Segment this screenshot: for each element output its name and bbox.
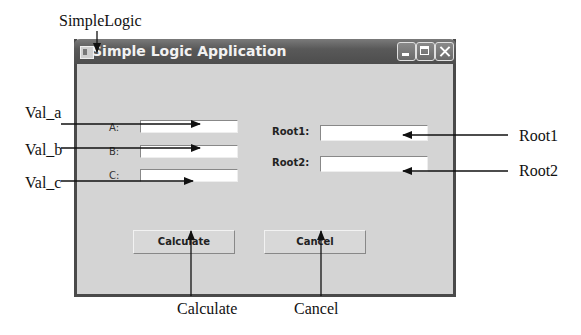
window-title: Simple Logic Application [92,43,287,59]
label-c: C: [109,170,119,181]
annotation-simplelogic: SimpleLogic [59,12,142,30]
annotation-root2: Root2 [519,162,558,180]
annotation-calculate: Calculate [177,300,237,318]
annotation-root1: Root1 [519,127,558,145]
label-root2: Root2: [272,157,309,168]
input-c[interactable] [140,169,238,182]
annotation-val-a: Val_a [25,104,61,122]
input-b[interactable] [140,145,238,158]
calculate-button[interactable]: Calculate [133,230,235,254]
close-button[interactable] [435,42,454,61]
input-a[interactable] [140,120,238,133]
annotation-val-b: Val_b [25,141,62,159]
maximize-button[interactable] [416,42,435,61]
annotation-val-c: Val_c [25,174,61,192]
label-root1: Root1: [272,126,309,137]
annotation-cancel: Cancel [294,300,338,318]
title-bar[interactable]: Simple Logic Application [74,39,456,64]
output-root2[interactable] [320,156,428,172]
label-b: B: [109,146,119,157]
minimize-button[interactable] [397,42,416,61]
label-a: A: [109,122,119,133]
output-root1[interactable] [320,125,428,141]
app-window: Simple Logic Application A: B: C: Root1:… [74,39,456,297]
cancel-button[interactable]: Cancel [264,230,366,254]
